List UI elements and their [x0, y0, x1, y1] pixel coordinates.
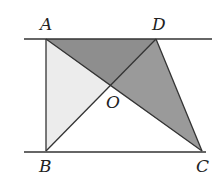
geometry-diagram: A D O B C: [0, 0, 222, 188]
label-C: C: [196, 156, 209, 176]
label-D: D: [151, 14, 166, 34]
label-A: A: [38, 14, 52, 34]
label-B: B: [38, 156, 52, 176]
label-O: O: [106, 92, 120, 112]
